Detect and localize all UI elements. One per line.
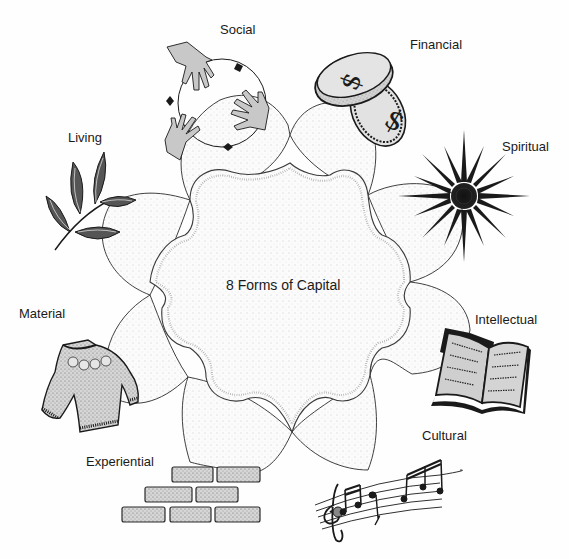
forms-of-capital-diagram: $ $ (0, 0, 569, 559)
label-spiritual: Spiritual (502, 140, 549, 153)
brick-wall-icon (122, 467, 260, 522)
label-financial: Financial (410, 38, 462, 51)
center-label: 8 Forms of Capital (226, 278, 340, 292)
label-experiential: Experiential (86, 455, 154, 468)
label-living: Living (68, 131, 102, 144)
music-notes-icon (315, 460, 463, 541)
label-intellectual: Intellectual (475, 313, 537, 326)
label-material: Material (19, 307, 65, 320)
label-social: Social (220, 23, 255, 36)
open-book-icon (431, 328, 531, 414)
label-cultural: Cultural (422, 429, 467, 442)
